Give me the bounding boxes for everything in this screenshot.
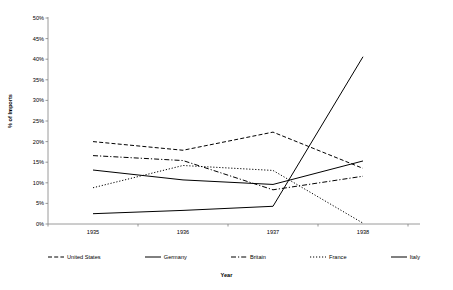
y-axis-tick-label: 50% bbox=[14, 15, 44, 21]
chart-plot-svg bbox=[0, 0, 453, 290]
series-line-united-states bbox=[93, 132, 363, 168]
legend-entry-italy[interactable]: Italy bbox=[391, 254, 420, 261]
legend-label: Italy bbox=[410, 254, 420, 261]
series-line-germany bbox=[93, 57, 363, 214]
y-axis-tick-label: 5% bbox=[14, 200, 44, 206]
legend-label: United States bbox=[67, 254, 101, 261]
legend-label: Britain bbox=[250, 254, 266, 261]
y-axis-title: % of Imports bbox=[7, 83, 13, 139]
x-axis-tick-label: 1935 bbox=[73, 229, 113, 236]
x-axis-tick-label: 1938 bbox=[343, 229, 383, 236]
legend-swatch-icon bbox=[48, 254, 64, 260]
legend-entry-britain[interactable]: Britain bbox=[231, 254, 266, 261]
legend-swatch-icon bbox=[145, 254, 161, 260]
legend-entry-united-states[interactable]: United States bbox=[48, 254, 101, 261]
chart-legend: United StatesGermanyBritainFranceItaly bbox=[48, 250, 420, 264]
y-axis-tick-label: 40% bbox=[14, 56, 44, 62]
x-axis-title: Year bbox=[0, 272, 453, 278]
legend-label: Germany bbox=[164, 254, 187, 261]
y-axis-tick-label: 15% bbox=[14, 159, 44, 165]
y-axis-tick-label: 25% bbox=[14, 118, 44, 124]
y-axis-tick-label: 35% bbox=[14, 77, 44, 83]
chart-series bbox=[93, 57, 363, 223]
legend-swatch-icon bbox=[231, 254, 247, 260]
x-axis-tick-label: 1937 bbox=[253, 229, 293, 236]
chart-container: 0%5%10%15%20%25%30%35%40%45%50% 19351936… bbox=[0, 0, 453, 290]
y-axis-tick-label: 0% bbox=[14, 221, 44, 227]
y-axis-tick-label: 45% bbox=[14, 36, 44, 42]
y-axis-tick-label: 20% bbox=[14, 139, 44, 145]
series-line-italy bbox=[93, 161, 363, 184]
legend-swatch-icon bbox=[391, 254, 407, 260]
legend-entry-germany[interactable]: Germany bbox=[145, 254, 187, 261]
legend-swatch-icon bbox=[310, 254, 326, 260]
y-axis-tick-label: 10% bbox=[14, 180, 44, 186]
x-axis-tick-label: 1936 bbox=[163, 229, 203, 236]
series-line-britain bbox=[93, 156, 363, 190]
legend-label: France bbox=[329, 254, 346, 261]
y-axis-tick-labels: 0%5%10%15%20%25%30%35%40%45%50% bbox=[12, 0, 44, 290]
y-axis-tick-label: 30% bbox=[14, 97, 44, 103]
legend-entry-france[interactable]: France bbox=[310, 254, 346, 261]
chart-axes bbox=[46, 17, 421, 227]
